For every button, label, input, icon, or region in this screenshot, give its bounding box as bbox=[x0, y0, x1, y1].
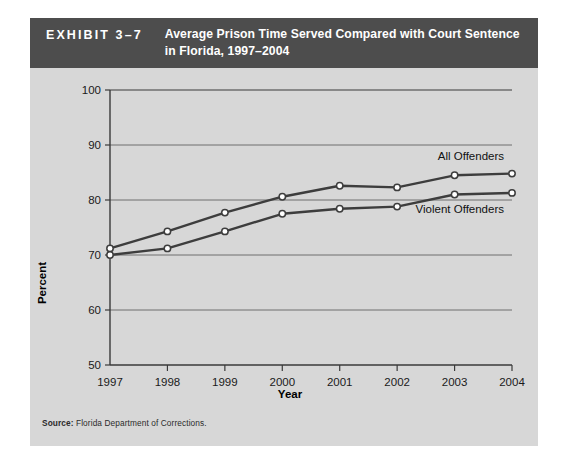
data-point-marker bbox=[279, 194, 285, 200]
chart-canvas: 5060708090100 19971998199920002001200220… bbox=[30, 68, 538, 413]
data-point-marker bbox=[222, 228, 228, 234]
chart-axes bbox=[110, 90, 512, 365]
data-point-marker bbox=[509, 170, 515, 176]
x-axis-tick-labels: 19971998199920002001200220032004 bbox=[97, 376, 525, 388]
y-tick-label: 100 bbox=[82, 84, 101, 96]
data-point-marker bbox=[451, 172, 457, 178]
x-tick-label: 2000 bbox=[269, 376, 295, 388]
x-tick-label: 2004 bbox=[499, 376, 525, 388]
series-label: Violent Offenders bbox=[416, 203, 505, 215]
y-tick-label: 50 bbox=[88, 359, 101, 371]
x-tick-label: 2001 bbox=[327, 376, 353, 388]
source-text: Florida Department of Corrections. bbox=[74, 418, 207, 428]
data-point-marker bbox=[107, 252, 113, 258]
series-label: All Offenders bbox=[438, 150, 505, 162]
exhibit-number: EXHIBIT 3–7 bbox=[46, 26, 143, 43]
data-point-marker bbox=[164, 245, 170, 251]
chart-gridlines bbox=[110, 90, 512, 310]
data-point-marker bbox=[337, 206, 343, 212]
data-point-marker bbox=[164, 228, 170, 234]
x-tick-label: 1998 bbox=[155, 376, 181, 388]
data-point-marker bbox=[394, 203, 400, 209]
y-axis-ticks bbox=[105, 90, 110, 365]
x-tick-label: 1997 bbox=[97, 376, 123, 388]
line-chart: 5060708090100 19971998199920002001200220… bbox=[30, 68, 538, 413]
y-tick-label: 60 bbox=[88, 304, 101, 316]
y-tick-label: 80 bbox=[88, 194, 101, 206]
x-tick-label: 2003 bbox=[442, 376, 468, 388]
exhibit-title-line-2: in Florida, 1997–2004 bbox=[165, 43, 520, 60]
source-label: Source: bbox=[42, 418, 74, 428]
x-tick-label: 2002 bbox=[384, 376, 410, 388]
y-tick-label: 90 bbox=[88, 139, 101, 151]
data-point-marker bbox=[222, 209, 228, 215]
x-axis-title: Year bbox=[278, 388, 303, 400]
data-point-marker bbox=[337, 183, 343, 189]
data-point-marker bbox=[107, 245, 113, 251]
exhibit-figure: EXHIBIT 3–7 Average Prison Time Served C… bbox=[0, 0, 568, 462]
x-tick-label: 1999 bbox=[212, 376, 238, 388]
y-axis-title: Percent bbox=[36, 262, 48, 304]
y-axis-tick-labels: 5060708090100 bbox=[82, 84, 101, 371]
chart-series-labels: All OffendersViolent Offenders bbox=[416, 150, 505, 215]
data-point-marker bbox=[279, 211, 285, 217]
x-axis-ticks bbox=[167, 365, 512, 371]
source-note: Source: Florida Department of Correction… bbox=[42, 418, 207, 428]
y-tick-label: 70 bbox=[88, 249, 101, 261]
data-point-marker bbox=[509, 190, 515, 196]
data-point-marker bbox=[451, 191, 457, 197]
data-point-marker bbox=[394, 184, 400, 190]
exhibit-title-line-1: Average Prison Time Served Compared with… bbox=[165, 26, 520, 43]
exhibit-header: EXHIBIT 3–7 Average Prison Time Served C… bbox=[30, 18, 538, 68]
